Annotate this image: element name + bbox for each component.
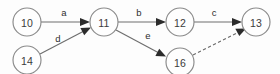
edge-line-dashed [193, 32, 239, 55]
arrowhead-b [156, 18, 166, 26]
edge-label-e: e [145, 30, 150, 41]
edge-group: a b c d [40, 7, 246, 57]
arrowhead-a [80, 18, 90, 26]
edge-line-d [40, 31, 84, 54]
node-group: 10 14 11 12 13 16 [13, 8, 270, 74]
edge-label-d: d [55, 33, 60, 44]
edge-label-c: c [212, 7, 217, 18]
node-12-label: 12 [174, 17, 186, 29]
edge-11-to-12[interactable]: b [118, 7, 166, 27]
arrowhead-e [155, 49, 166, 57]
node-16[interactable]: 16 [166, 48, 194, 74]
diagram-canvas: a b c d [0, 0, 280, 74]
node-13-label: 13 [250, 17, 262, 29]
node-12[interactable]: 12 [166, 8, 194, 36]
edge-16-to-13[interactable] [193, 29, 246, 55]
edge-14-to-11[interactable]: d [40, 27, 91, 54]
node-16-label: 16 [174, 57, 186, 69]
edge-line-e [116, 30, 159, 53]
node-13[interactable]: 13 [242, 8, 270, 36]
edge-11-to-16[interactable]: e [116, 30, 166, 57]
edge-label-b: b [136, 7, 141, 18]
edge-10-to-11[interactable]: a [41, 7, 90, 27]
node-11[interactable]: 11 [90, 8, 118, 36]
directed-graph: a b c d [0, 0, 280, 74]
arrowhead-c [232, 18, 242, 26]
node-14[interactable]: 14 [13, 46, 41, 74]
arrowhead-d [80, 27, 91, 35]
node-14-label: 14 [21, 55, 33, 67]
node-10[interactable]: 10 [13, 8, 41, 36]
edge-label-a: a [61, 7, 67, 18]
node-10-label: 10 [21, 17, 33, 29]
edge-12-to-13[interactable]: c [194, 7, 242, 27]
node-11-label: 11 [98, 17, 109, 29]
